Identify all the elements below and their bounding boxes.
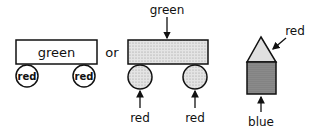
middle-wheel-1 xyxy=(128,65,152,89)
base-label: blue xyxy=(248,115,274,129)
diagram-canvas: green red red or green red red red blue xyxy=(0,0,319,136)
left-figure: green red red xyxy=(16,40,97,87)
middle-wheel-2-label: red xyxy=(185,111,205,125)
right-figure: red blue xyxy=(247,24,305,129)
middle-wheel-2 xyxy=(183,65,207,89)
left-wheel-1-label: red xyxy=(18,71,37,82)
roof-arrow xyxy=(273,38,286,49)
left-body-label: green xyxy=(38,45,76,60)
roof-label: red xyxy=(285,24,305,38)
left-wheel-2-label: red xyxy=(75,71,94,82)
base-square xyxy=(247,62,276,94)
roof-triangle xyxy=(247,37,276,62)
middle-body-rect xyxy=(128,40,208,64)
middle-wheel-1-label: red xyxy=(130,111,150,125)
or-connector: or xyxy=(105,45,119,60)
middle-figure: green red red xyxy=(128,3,208,125)
middle-body-label: green xyxy=(150,3,185,17)
